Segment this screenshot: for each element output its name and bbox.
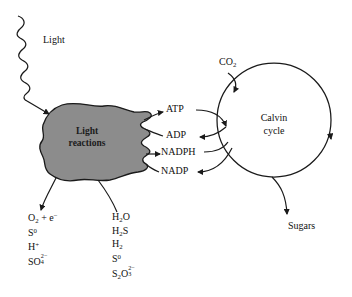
sugars-outlet-arrow xyxy=(272,177,287,214)
calvin-cycle-direction-arrow xyxy=(330,133,331,139)
sugars-label: Sugars xyxy=(288,221,315,232)
formula-hydrogen: H2 xyxy=(112,239,134,250)
co2-label: CO2 xyxy=(219,57,236,68)
donors-inlet-arrow xyxy=(98,180,117,212)
adp-arrow-from-calvin xyxy=(200,127,226,137)
atp-arrow-into-calvin xyxy=(196,110,226,126)
formula-hydrogen-sulfide: H2S xyxy=(112,226,134,237)
products-outlet-arrow xyxy=(41,178,56,210)
nadp-arrow-into-light-reactions xyxy=(146,164,159,172)
nadph-label: NADPH xyxy=(161,147,195,158)
co2-subscript: 2 xyxy=(233,61,236,68)
formula-sulfur-zero: S0 xyxy=(28,227,58,239)
adp-label: ADP xyxy=(166,130,186,141)
calvin-cycle-label-line2: cycle xyxy=(247,124,301,137)
light-reactions-label-line2: reactions xyxy=(60,138,114,150)
formula-water: H2O xyxy=(112,212,134,223)
light-label: Light xyxy=(43,35,65,46)
donors-formula-list: H2OH2SH2S0S2O2−3 xyxy=(112,212,134,283)
nadp-label: NADP xyxy=(161,166,188,177)
atp-label: ATP xyxy=(166,104,184,115)
co2-text: CO xyxy=(219,56,233,67)
light-reactions-label-line1: Light xyxy=(60,126,114,138)
light-ray-arrow xyxy=(27,101,49,114)
formula-sulfate: SO2−4 xyxy=(28,255,58,268)
formula-proton: H+ xyxy=(28,241,58,253)
photosynthesis-diagram: Light Light reactions Calvin cycle ATP A… xyxy=(0,0,352,297)
formula-thiosulfate: S2O2−3 xyxy=(112,267,134,280)
products-formula-list: O2 + e−S0H+SO2−4 xyxy=(28,212,58,270)
formula-oxygen-electron: O2 + e− xyxy=(28,212,58,224)
formula-sulfur-zero: S0 xyxy=(112,253,134,265)
light-reactions-label: Light reactions xyxy=(60,126,114,150)
light-ray-wave xyxy=(17,16,30,101)
calvin-cycle-label: Calvin cycle xyxy=(247,111,301,137)
calvin-cycle-label-line1: Calvin xyxy=(247,111,301,124)
